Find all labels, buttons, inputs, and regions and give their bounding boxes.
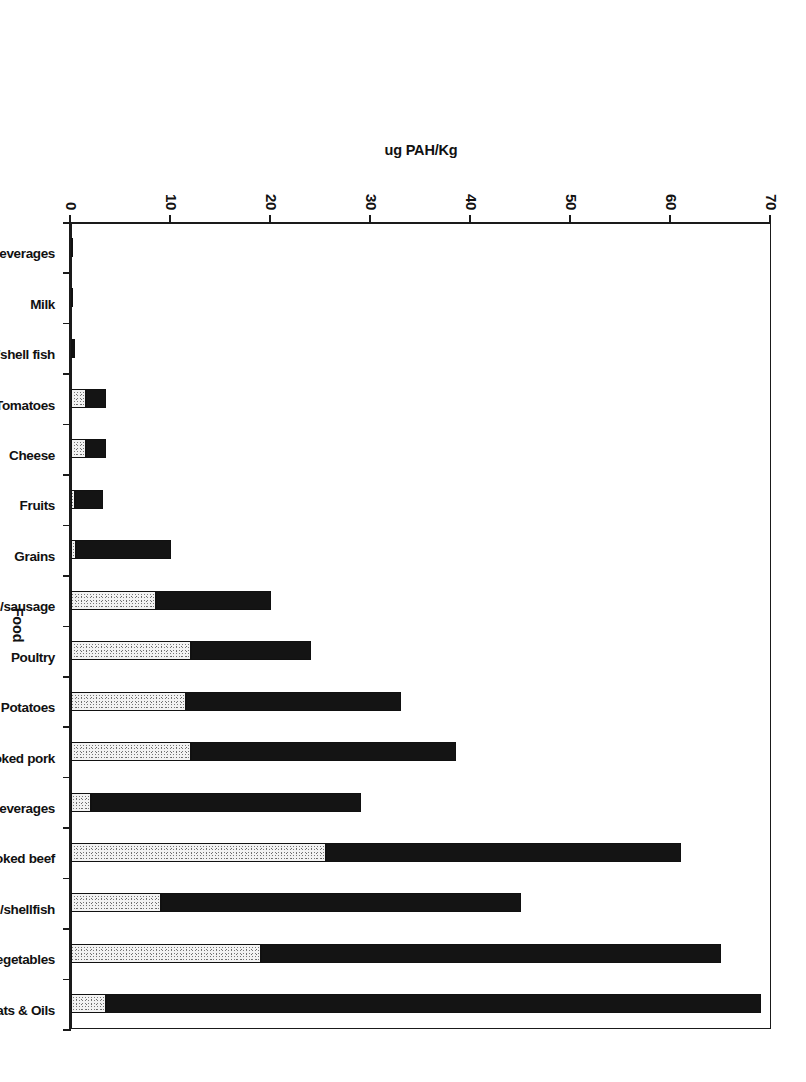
bar-segment-lower — [71, 490, 75, 509]
bar-segment-lower — [71, 439, 86, 458]
category-axis-tick — [63, 575, 71, 577]
category-axis-label: Alcoholic beverages — [0, 246, 55, 261]
bar — [71, 389, 106, 408]
bar — [71, 742, 456, 761]
bar — [71, 793, 361, 812]
category-axis-tick — [63, 626, 71, 628]
category-axis-tick — [63, 272, 71, 274]
value-axis-tick — [369, 215, 371, 223]
value-axis-tick-label: 40 — [463, 194, 480, 210]
value-axis-tick — [669, 215, 671, 223]
bar-segment-lower — [71, 793, 91, 812]
category-axis-tick — [63, 979, 71, 981]
category-axis-label: Nonalcoholic beverages — [0, 801, 55, 816]
bar — [71, 843, 681, 862]
bars-layer — [71, 222, 771, 1029]
bar-segment-lower — [71, 742, 191, 761]
bar-segment-upper — [186, 692, 401, 711]
rotated-figure-wrapper: 010203040506070 ug PAH/Kg Alcoholic beve… — [0, 0, 806, 1082]
category-axis-label: Potatoes — [1, 700, 55, 715]
bar-segment-lower — [71, 591, 156, 610]
category-axis-tick — [63, 676, 71, 678]
value-axis-tick — [769, 215, 771, 223]
category-axis-tick — [63, 323, 71, 325]
bar-segment-upper — [156, 591, 271, 610]
value-axis-tick-label: 70 — [763, 194, 780, 210]
bar-segment-upper — [86, 439, 106, 458]
category-axis-label: Cheese — [9, 447, 55, 462]
bar-segment-upper — [75, 490, 103, 509]
category-axis-tick — [63, 222, 71, 224]
bar-segment-lower — [71, 944, 261, 963]
bar-segment-lower — [71, 692, 186, 711]
category-axis-label: Tomatoes — [0, 397, 55, 412]
category-axis-tick — [63, 373, 71, 375]
category-axis-tick — [63, 525, 71, 527]
category-axis-tick — [63, 878, 71, 880]
bar-segment-upper — [86, 389, 106, 408]
value-axis-title: ug PAH/Kg — [385, 142, 458, 158]
bar-segment-lower — [71, 893, 161, 912]
value-axis-tick — [469, 215, 471, 223]
bar — [71, 692, 401, 711]
bar-segment-upper — [191, 742, 456, 761]
bar — [71, 994, 761, 1013]
category-axis-label: Grains — [14, 548, 55, 563]
category-axis-tick — [63, 424, 71, 426]
bar-segment-upper — [326, 843, 681, 862]
category-axis: Alcoholic beveragesMilkFish/shell fishTo… — [69, 222, 71, 1029]
bar — [71, 944, 721, 963]
bar-segment-lower — [71, 994, 106, 1013]
category-axis-label: Poultry — [11, 649, 55, 664]
value-axis-tick — [269, 215, 271, 223]
bar-segment-upper — [91, 793, 361, 812]
value-axis: 010203040506070 — [71, 222, 771, 224]
bar — [71, 238, 73, 257]
category-axis-label: Fruits — [20, 498, 55, 513]
category-axis-label: Green leafy vegetables — [0, 952, 55, 967]
bar-segment-upper — [106, 994, 761, 1013]
bar-segment-lower — [71, 339, 73, 358]
bar-segment-lower — [71, 540, 76, 559]
bar-segment-upper — [261, 944, 721, 963]
category-axis-label: Milk — [30, 296, 55, 311]
bar — [71, 439, 106, 458]
bar — [71, 591, 271, 610]
value-axis-tick — [169, 215, 171, 223]
value-axis-tick-label: 50 — [563, 194, 580, 210]
category-axis-tick — [63, 777, 71, 779]
bar — [71, 288, 73, 307]
category-axis-tick — [63, 474, 71, 476]
category-axis-label: Smoked fish/shellfish — [0, 901, 55, 916]
category-axis-label: Fish/shell fish — [0, 347, 55, 362]
category-axis-title: Food — [10, 608, 26, 643]
value-axis-tick-label: 20 — [263, 194, 280, 210]
value-axis-tick — [569, 215, 571, 223]
bar-segment-lower — [71, 641, 191, 660]
category-axis-label: Fats & Oils — [0, 1002, 55, 1017]
bar — [71, 339, 75, 358]
bar-segment-lower — [71, 389, 86, 408]
bar — [71, 490, 103, 509]
bar — [71, 893, 521, 912]
bar — [71, 641, 311, 660]
bar-chart-figure: 010203040506070 ug PAH/Kg Alcoholic beve… — [0, 0, 806, 1082]
category-axis-tick — [63, 1029, 71, 1031]
value-axis-tick-label: 60 — [663, 194, 680, 210]
value-axis-tick-label: 0 — [63, 202, 80, 210]
category-axis-label: Charcoal broiled or smoked beef — [0, 851, 55, 866]
category-axis-tick — [63, 928, 71, 930]
category-axis-tick — [63, 827, 71, 829]
bar-segment-upper — [191, 641, 311, 660]
bar — [71, 540, 171, 559]
bar-segment-lower — [71, 238, 73, 257]
bar-segment-lower — [71, 843, 326, 862]
bar-segment-upper — [76, 540, 171, 559]
value-axis-tick-label: 10 — [163, 194, 180, 210]
category-axis-tick — [63, 726, 71, 728]
bar-segment-lower — [71, 288, 73, 307]
value-axis-tick-label: 30 — [363, 194, 380, 210]
category-axis-label: Charcoal broiled or smoked pork — [0, 750, 55, 765]
category-axis-label: Frankfurters/sausage — [0, 599, 55, 614]
bar-segment-upper — [161, 893, 521, 912]
